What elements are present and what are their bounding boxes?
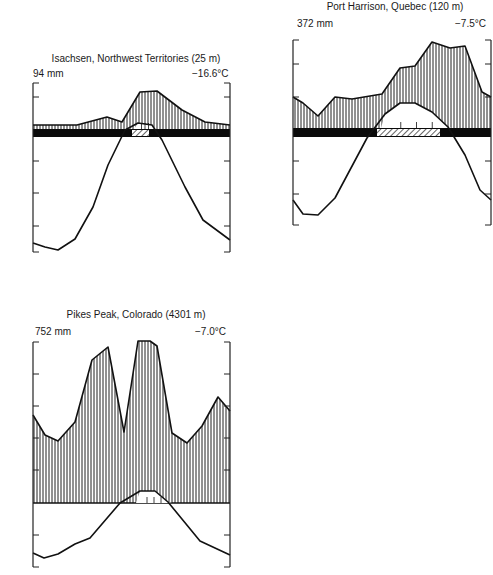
temp-label-port-harrison: −7.5°C <box>455 18 486 29</box>
chart-pikes-peak <box>33 341 230 567</box>
precip-label-pikes-peak: 752 mm <box>35 326 71 337</box>
temp-label-pikes-peak: −7.0°C <box>195 326 226 337</box>
precip-label-isachsen: 94 mm <box>33 68 64 79</box>
frost-free-hatch <box>132 130 149 136</box>
chart-title-isachsen: Isachsen, Northwest Territories (25 m) <box>36 53 236 64</box>
chart-port-harrison <box>293 40 491 225</box>
frost-band <box>33 129 230 137</box>
frost-free-hatch <box>377 129 440 136</box>
climate-diagrams <box>0 0 493 575</box>
temp-label-isachsen: −16.6°C <box>192 68 229 79</box>
precipitation-area <box>33 341 230 503</box>
precip-label-port-harrison: 372 mm <box>297 18 333 29</box>
temperature-line <box>33 123 230 250</box>
chart-title-port-harrison: Port Harrison, Quebec (120 m) <box>300 1 490 12</box>
precipitation-area <box>33 91 230 129</box>
chart-isachsen <box>33 83 230 252</box>
chart-title-pikes-peak: Pikes Peak, Colorado (4301 m) <box>36 309 236 320</box>
